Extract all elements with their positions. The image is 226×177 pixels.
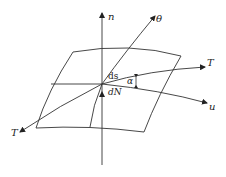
tangent-T-left: [20, 84, 102, 132]
label-theta: θ: [156, 13, 162, 24]
diagram-canvas: n dN θ T u T ds α: [0, 0, 226, 177]
surface-left-edge: [36, 52, 73, 128]
surface-diagram: n dN θ T u T ds α: [0, 0, 226, 177]
label-n: n: [108, 11, 114, 22]
label-alpha: α: [127, 76, 133, 86]
label-T-right: T: [207, 57, 215, 68]
label-T-left: T: [11, 127, 19, 138]
surface-bottom-edge: [36, 127, 144, 132]
label-dN: dN: [108, 87, 123, 97]
dN-arrow-icon: [99, 91, 105, 97]
label-ds: ds: [108, 71, 119, 81]
surface-grid-line-vertical: [90, 84, 102, 127]
alpha-arrow-down-icon: [134, 85, 138, 88]
surface-top-edge: [73, 48, 181, 56]
surface-right-edge: [144, 56, 181, 132]
label-u: u: [209, 101, 215, 112]
